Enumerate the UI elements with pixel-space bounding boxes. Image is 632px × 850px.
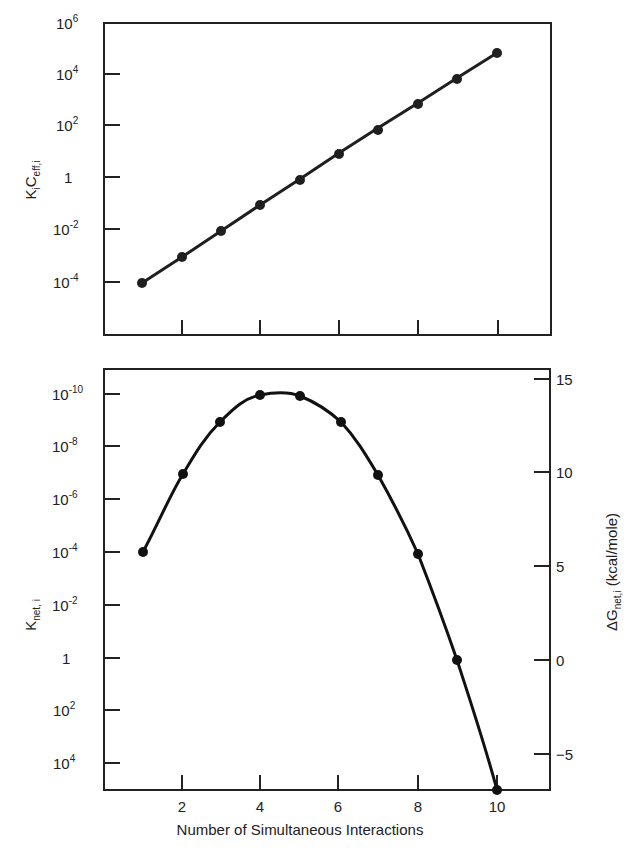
data-point	[178, 469, 188, 479]
bottom-ytick-label: 10-10	[52, 384, 84, 403]
xtick-label: 10	[489, 798, 506, 815]
top-ytick-label: 10-4	[53, 272, 79, 291]
data-point	[334, 149, 344, 159]
bottom-y-ticks	[104, 394, 120, 763]
bottom-ytick-label: 104	[53, 753, 76, 772]
data-point	[295, 175, 305, 185]
xtick-label: 2	[178, 798, 186, 815]
data-point	[138, 547, 148, 557]
bottom-ytick-label: 10-6	[52, 489, 78, 508]
data-point	[295, 391, 305, 401]
top-y-axis-title: KiCeff,i	[22, 160, 42, 199]
top-plot-frame	[104, 23, 551, 335]
data-point	[255, 390, 265, 400]
top-ytick-label: 102	[56, 115, 79, 134]
top-y-ticks	[104, 74, 120, 282]
y2tick-label: 0	[556, 652, 564, 669]
data-point	[413, 549, 423, 559]
x-axis-title: Number of Simultaneous Interactions	[177, 821, 424, 838]
bottom-y2-axis-title: ΔGnet,i (kcal/mole)	[603, 513, 623, 631]
data-point	[137, 278, 147, 288]
data-point	[492, 785, 502, 795]
top-ytick-label: 10-2	[53, 219, 79, 238]
bottom-ytick-label: 102	[53, 700, 76, 719]
bottom-chart: 10-10 10-8 10-6 10-4 10-2 1 102 104 15 1…	[22, 369, 623, 838]
data-point	[373, 470, 383, 480]
data-point	[255, 200, 265, 210]
bottom-plot-frame	[104, 369, 550, 790]
y2tick-label: 5	[556, 558, 564, 575]
y2tick-label: −5	[556, 746, 573, 763]
bottom-series-markers	[138, 390, 502, 795]
bottom-series-curve	[143, 393, 497, 790]
data-point	[492, 48, 502, 58]
bottom-ytick-label: 10-8	[52, 436, 78, 455]
data-point	[216, 226, 226, 236]
data-point	[413, 99, 423, 109]
xtick-label: 8	[414, 798, 422, 815]
top-ytick-label: 104	[56, 64, 79, 83]
bottom-x-ticks	[182, 775, 497, 790]
bottom-y2-ticks	[534, 379, 550, 754]
data-point	[336, 417, 346, 427]
bottom-y-tick-labels: 10-10 10-8 10-6 10-4 10-2 1 102 104	[52, 384, 84, 772]
data-point	[452, 655, 462, 665]
xtick-label: 6	[334, 798, 342, 815]
data-point	[373, 125, 383, 135]
data-point	[452, 74, 462, 84]
top-ytick-label: 106	[56, 13, 79, 32]
figure: 106 104 102 1 10-2 10-4 KiCeff,i	[0, 0, 632, 850]
bottom-ytick-label: 10-4	[52, 542, 78, 561]
xtick-label: 4	[256, 798, 264, 815]
top-x-ticks	[182, 320, 498, 335]
y2tick-label: 10	[556, 464, 573, 481]
top-series-line	[142, 51, 500, 283]
bottom-x-tick-labels: 2 4 6 8 10	[178, 798, 506, 815]
data-point	[215, 417, 225, 427]
top-chart: 106 104 102 1 10-2 10-4 KiCeff,i	[22, 13, 551, 335]
top-y-tick-labels: 106 104 102 1 10-2 10-4	[53, 13, 79, 291]
y2tick-label: 15	[556, 371, 573, 388]
data-point	[177, 252, 187, 262]
bottom-ytick-label: 10-2	[52, 595, 78, 614]
top-ytick-label: 1	[64, 169, 72, 186]
bottom-ytick-label: 1	[62, 650, 70, 667]
bottom-y2-tick-labels: 15 10 5 0 −5	[556, 371, 573, 763]
bottom-y-axis-title: Knet, i	[22, 599, 42, 631]
